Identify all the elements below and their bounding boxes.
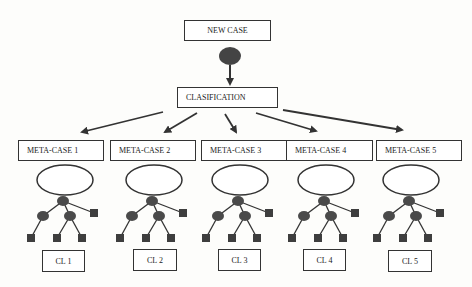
tree-leaf-icon xyxy=(167,234,175,242)
tree-leaf-icon xyxy=(179,209,187,217)
cluster-5-box: CL 5 xyxy=(388,250,432,272)
tree-leaf-icon xyxy=(351,209,359,217)
tree-node-icon xyxy=(37,211,49,221)
tree-leaf-icon xyxy=(53,234,61,242)
tree-node-icon xyxy=(410,211,422,221)
tree-node-icon xyxy=(403,196,415,206)
classification-box: CLASIFICATION xyxy=(177,87,278,108)
tree-leaf-icon xyxy=(424,234,432,242)
cluster-1-box: CL 1 xyxy=(42,250,85,272)
tree-node-icon xyxy=(57,196,69,206)
meta-case-2-box: META-CASE 2 xyxy=(110,140,196,161)
tree-leaf-icon xyxy=(116,234,124,242)
tree-leaf-icon xyxy=(399,234,407,242)
arrow-to-meta-case-3 xyxy=(225,114,236,132)
tree-leaf-icon xyxy=(202,234,210,242)
tree-node-icon xyxy=(146,196,158,206)
tree-node-icon xyxy=(212,211,224,221)
meta-case-3-box: META-CASE 3 xyxy=(201,140,287,161)
tree-node-icon xyxy=(239,211,251,221)
tree-node-icon xyxy=(325,211,337,221)
tree-leaf-icon xyxy=(314,234,322,242)
tree-leaf-icon xyxy=(339,234,347,242)
cluster-2-box: CL 2 xyxy=(133,249,177,271)
tree-leaf-icon xyxy=(27,234,35,242)
tree-leaf-icon xyxy=(78,234,86,242)
new-case-box: NEW CASE xyxy=(184,20,271,41)
tree-leaf-icon xyxy=(253,234,261,242)
meta-case-4-box: META-CASE 4 xyxy=(286,140,373,161)
meta-case-2-ellipse xyxy=(126,165,182,195)
meta-case-5-box: META-CASE 5 xyxy=(376,140,462,161)
tree-leaf-icon xyxy=(90,209,98,217)
meta-case-1-ellipse xyxy=(37,165,93,195)
tree-node-icon xyxy=(64,211,76,221)
tree-node-icon xyxy=(383,211,395,221)
tree-node-icon xyxy=(153,211,165,221)
meta-case-3-ellipse xyxy=(212,165,268,195)
query-node-icon xyxy=(219,47,241,65)
tree-node-icon xyxy=(126,211,138,221)
cluster-3-box: CL 3 xyxy=(218,249,261,271)
tree-leaf-icon xyxy=(228,234,236,242)
meta-case-1-box: META-CASE 1 xyxy=(18,140,104,161)
tree-leaf-icon xyxy=(265,209,273,217)
tree-leaf-icon xyxy=(142,234,150,242)
tree-node-icon xyxy=(318,196,330,206)
meta-case-4-ellipse xyxy=(298,165,354,195)
tree-leaf-icon xyxy=(436,209,444,217)
arrow-to-meta-case-2 xyxy=(165,113,197,132)
arrow-to-meta-case-4 xyxy=(256,113,316,131)
tree-node-icon xyxy=(232,196,244,206)
arrow-to-meta-case-1 xyxy=(82,112,163,132)
meta-case-5-ellipse xyxy=(383,165,439,195)
tree-leaf-icon xyxy=(288,234,296,242)
tree-leaf-icon xyxy=(373,234,381,242)
tree-node-icon xyxy=(298,211,310,221)
cluster-4-box: CL 4 xyxy=(303,249,346,271)
